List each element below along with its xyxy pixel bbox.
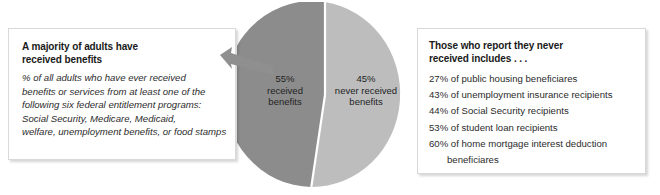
- list-item: 27% of public housing beneficiares: [429, 71, 641, 87]
- list-item-continuation: beneficiares: [429, 152, 641, 168]
- panel-right-title-line2: received includes . . .: [429, 53, 527, 64]
- pie-label-never-received-benefits: 45% never received benefits: [326, 73, 406, 108]
- panel-left-body-line-3: following six federal entitlement progra…: [22, 98, 234, 112]
- panel-right-title-line1: Those who report they never: [429, 40, 563, 51]
- panel-right-statistics-list: 27% of public housing beneficiares 43% o…: [429, 71, 641, 168]
- list-item: 60% of home mortgage interest deduction: [429, 136, 641, 152]
- panel-left-body-line-4: Social Security, Medicare, Medicaid,: [22, 112, 234, 126]
- pie-label-received-line3: benefits: [268, 96, 301, 107]
- panel-left-body-line-2: benefits or services from at least one o…: [22, 85, 234, 99]
- infographic-pie-figure: 55% received benefits 45% never received…: [0, 0, 660, 195]
- panel-left-title-line2: received benefits: [22, 54, 102, 65]
- callout-arrow-icon: [218, 44, 274, 80]
- pie-label-received-percent: 55%: [275, 73, 294, 84]
- panel-left-title-line1: A majority of adults have: [22, 41, 138, 52]
- arrow-shape: [220, 47, 273, 75]
- callout-panel-left: A majority of adults have received benef…: [8, 28, 236, 160]
- pie-label-never-percent: 45%: [356, 73, 375, 84]
- pie-label-never-line2: never received: [335, 85, 397, 96]
- panel-right-title: Those who report they never received inc…: [429, 40, 639, 65]
- pie-label-received-line2: received: [267, 85, 303, 96]
- callout-arrow: [218, 44, 274, 80]
- list-item: 53% of student loan recipients: [429, 120, 641, 136]
- panel-left-body-line-5: welfare, unemployment benefits, or food …: [22, 125, 234, 139]
- list-item: 44% of Social Security recipients: [429, 103, 641, 119]
- panel-left-body-line-1: % of all adults who have ever received: [22, 71, 234, 85]
- panel-left-body: % of all adults who have ever received b…: [22, 71, 234, 139]
- callout-panel-right: Those who report they never received inc…: [417, 28, 646, 174]
- list-item: 43% of unemployment insurance recipients: [429, 87, 641, 103]
- pie-label-never-line3: benefits: [349, 96, 382, 107]
- panel-left-title: A majority of adults have received benef…: [22, 41, 222, 66]
